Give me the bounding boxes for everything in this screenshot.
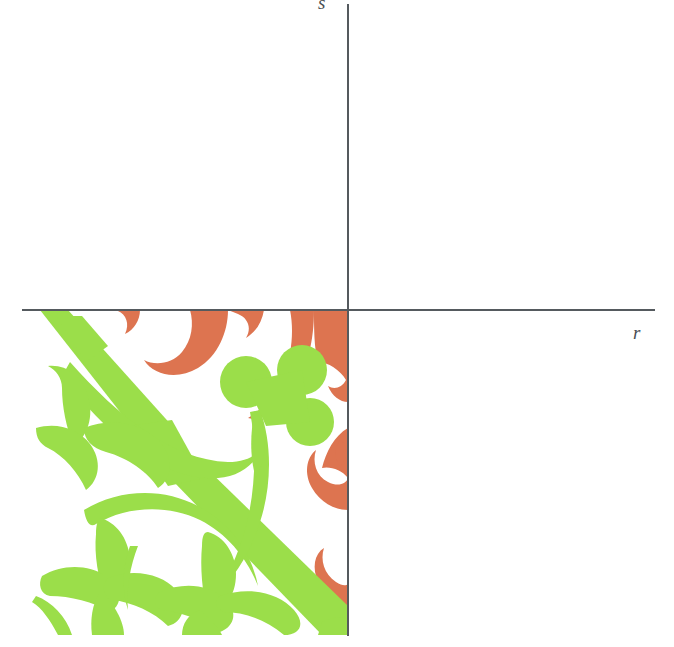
pattern-region <box>22 310 348 635</box>
orange-scallop-top-large <box>140 310 228 375</box>
s-axis-label: s <box>318 0 325 14</box>
clover-flower <box>220 345 334 478</box>
orange-scallop-topleft <box>92 310 140 334</box>
r-axis-label: r <box>633 322 640 344</box>
green-curl-bottomleft <box>32 596 72 635</box>
r-axis-line <box>22 309 655 311</box>
orange-hook-topmid <box>228 310 264 338</box>
s-axis-line <box>347 4 349 636</box>
floral-pattern-svg <box>22 310 348 635</box>
figure-canvas: s r <box>0 0 674 647</box>
